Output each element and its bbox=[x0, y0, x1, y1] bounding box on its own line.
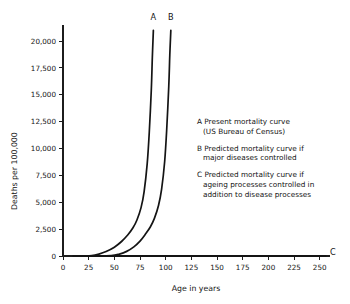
curve-label-b: B bbox=[168, 12, 174, 22]
x-tick-label: 200 bbox=[262, 263, 276, 272]
x-tick-label: 75 bbox=[135, 263, 144, 272]
y-tick-label: 15,000 bbox=[31, 90, 57, 99]
curve-a bbox=[73, 30, 153, 256]
legend-line: major diseases controlled bbox=[197, 153, 345, 163]
curve-label-c: C bbox=[330, 247, 336, 257]
x-tick-label: 25 bbox=[84, 263, 93, 272]
y-tick-label: 10,000 bbox=[31, 144, 57, 153]
legend-line: ageing processes controlled in bbox=[197, 180, 345, 190]
curve-label-a: A bbox=[151, 12, 157, 22]
y-tick-label: 0 bbox=[51, 252, 56, 261]
y-tick-label: 12,500 bbox=[31, 117, 57, 126]
x-axis-title: Age in years bbox=[172, 284, 221, 293]
x-tick-label: 125 bbox=[185, 263, 199, 272]
y-tick-label: 7,500 bbox=[35, 171, 56, 180]
x-tick-label: 250 bbox=[313, 263, 327, 272]
y-axis-ticks bbox=[59, 41, 63, 256]
x-tick-label: 50 bbox=[110, 263, 120, 272]
x-tick-label: 150 bbox=[210, 263, 224, 272]
x-tick-label: 175 bbox=[236, 263, 250, 272]
chart-legend: A Present mortality curve(US Bureau of C… bbox=[197, 117, 345, 206]
x-tick-label: 100 bbox=[159, 263, 173, 272]
legend-line: A Present mortality curve bbox=[197, 117, 345, 127]
legend-entry-c: C Predicted mortality curve ifageing pro… bbox=[197, 170, 345, 199]
y-tick-label: 2,500 bbox=[35, 225, 56, 234]
x-tick-label: 0 bbox=[61, 263, 66, 272]
legend-line: (US Bureau of Census) bbox=[197, 127, 345, 137]
y-tick-label: 17,500 bbox=[31, 64, 57, 73]
y-tick-label: 5,000 bbox=[35, 198, 56, 207]
x-axis-tick-labels: 0255075100125150175200225250 bbox=[61, 263, 327, 272]
legend-line: addition to disease processes bbox=[197, 190, 345, 200]
legend-line: C Predicted mortality curve if bbox=[197, 170, 345, 180]
mortality-curve-chart: 02,5005,0007,50010,00012,50015,00017,500… bbox=[0, 0, 350, 304]
y-axis-title: Deaths per 100,000 bbox=[10, 132, 19, 210]
y-axis-tick-labels: 02,5005,0007,50010,00012,50015,00017,500… bbox=[31, 37, 57, 261]
curve-b bbox=[73, 30, 171, 256]
y-tick-label: 20,000 bbox=[31, 37, 57, 46]
legend-entry-a: A Present mortality curve(US Bureau of C… bbox=[197, 117, 345, 137]
legend-line: B Predicted mortality curve if bbox=[197, 144, 345, 154]
legend-entry-b: B Predicted mortality curve ifmajor dise… bbox=[197, 144, 345, 164]
x-tick-label: 225 bbox=[287, 263, 301, 272]
